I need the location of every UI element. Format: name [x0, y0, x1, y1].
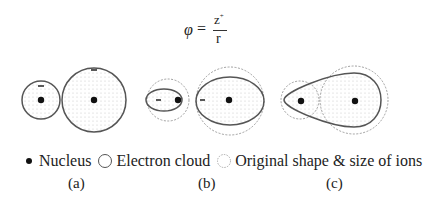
legend-item-nucleus: Nucleus [22, 152, 91, 170]
nucleus-icon [91, 97, 97, 103]
nucleus-icon [38, 97, 44, 103]
legend-item-electron-cloud: Electron cloud [97, 152, 210, 170]
solid-circle-icon [97, 153, 113, 169]
nucleus-icon [352, 98, 358, 104]
ion-polarization-diagram [0, 0, 407, 150]
panel-label-a: (a) [68, 175, 85, 192]
panel-b [146, 67, 264, 135]
panel-label-c: (c) [326, 175, 343, 192]
legend-item-original-shape: Original shape & size of ions [216, 152, 422, 170]
panel-label-b: (b) [198, 175, 216, 192]
panel-a [22, 68, 126, 132]
nucleus-icon [175, 97, 181, 103]
panel-c [281, 66, 388, 134]
nucleus-icon [226, 97, 232, 103]
nucleus-icon [298, 98, 304, 104]
filled-dot-icon [22, 154, 36, 168]
legend: Nucleus Electron cloud Original shape & … [22, 152, 427, 170]
dashed-circle-icon [216, 153, 232, 169]
